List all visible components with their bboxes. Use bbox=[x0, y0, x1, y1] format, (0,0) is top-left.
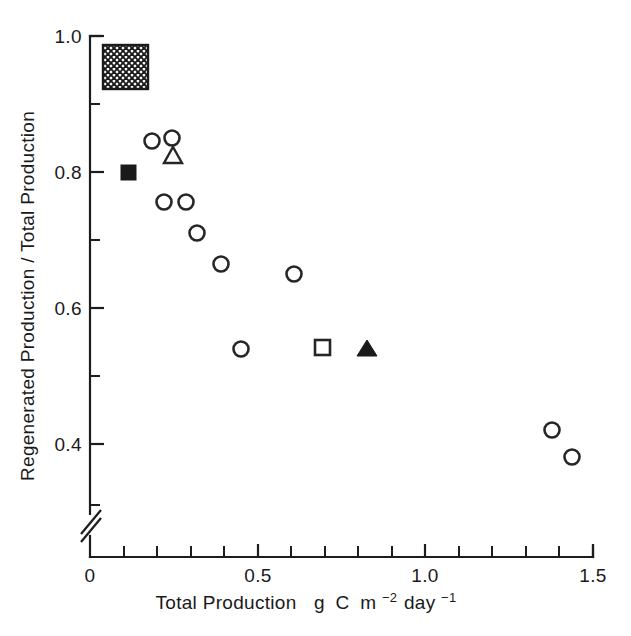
y-tick-label-0.4: 0.4 bbox=[54, 434, 82, 455]
hatched-region-marker bbox=[103, 45, 148, 89]
x-axis-title-c: C bbox=[336, 592, 350, 613]
data-point-filled-triangle bbox=[357, 340, 377, 356]
data-point-open-triangle bbox=[164, 147, 182, 163]
data-point-open-circle bbox=[165, 131, 180, 146]
x-tick-labels-group: 0 0.5 1.0 1.5 bbox=[85, 565, 607, 586]
y-tick-labels-group: 1.0 0.8 0.6 0.4 bbox=[54, 26, 82, 455]
data-point-open-circle bbox=[145, 134, 160, 149]
data-point-open-circle bbox=[157, 195, 172, 210]
x-axis-title-main: Total Production bbox=[155, 592, 296, 613]
x-axis-title-day-exponent: −1 bbox=[441, 590, 456, 605]
scatter-plot-figure: 1.0 0.8 0.6 0.4 0 0.5 1.0 1.5 Total Prod… bbox=[0, 0, 631, 636]
data-point-open-circle bbox=[234, 342, 249, 357]
data-point-open-circle bbox=[545, 423, 560, 438]
x-axis-title-day: day bbox=[404, 592, 436, 613]
y-tick-label-1.0: 1.0 bbox=[54, 26, 82, 47]
x-axis-title-m: m bbox=[360, 592, 376, 613]
data-point-open-circle bbox=[190, 226, 205, 241]
data-point-open-circle bbox=[179, 195, 194, 210]
x-axis-title-g: g bbox=[314, 592, 325, 613]
x-axis-title-m-exponent: −2 bbox=[382, 590, 397, 605]
x-tick-label-1.5: 1.5 bbox=[579, 565, 607, 586]
y-tick-label-0.8: 0.8 bbox=[54, 162, 82, 183]
x-tick-label-0: 0 bbox=[85, 565, 96, 586]
y-axis-title: Regenerated Production / Total Productio… bbox=[17, 111, 38, 481]
x-tick-label-0.5: 0.5 bbox=[244, 565, 272, 586]
y-tick-label-0.6: 0.6 bbox=[54, 298, 82, 319]
x-ticks-group bbox=[124, 544, 593, 557]
data-point-open-circle bbox=[565, 450, 580, 465]
data-point-filled-square bbox=[121, 165, 136, 180]
axes-group bbox=[81, 36, 593, 557]
x-tick-label-1.0: 1.0 bbox=[411, 565, 439, 586]
data-point-open-circle bbox=[287, 267, 302, 282]
y-ticks-group bbox=[90, 36, 104, 505]
data-point-open-circle bbox=[214, 257, 229, 272]
data-markers-group bbox=[121, 131, 580, 465]
plot-canvas: 1.0 0.8 0.6 0.4 0 0.5 1.0 1.5 Total Prod… bbox=[0, 0, 631, 636]
data-point-open-square bbox=[315, 340, 330, 355]
x-axis-title: Total Production g C m −2 day −1 bbox=[155, 585, 456, 613]
